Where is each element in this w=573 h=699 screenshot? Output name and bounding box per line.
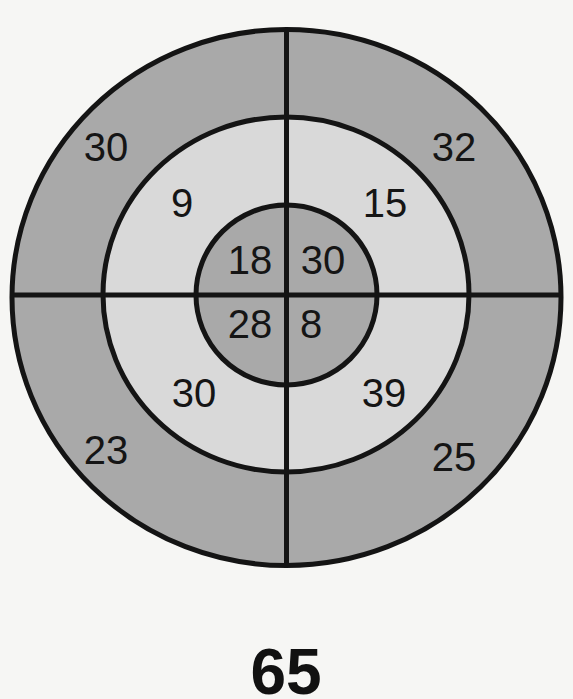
inner-lower-left-value: 28 bbox=[228, 304, 273, 344]
inner-lower-right-value: 8 bbox=[300, 304, 322, 344]
middle-upper-left-value: 9 bbox=[171, 183, 193, 223]
middle-lower-right-value: 39 bbox=[362, 373, 407, 413]
middle-upper-right-value: 15 bbox=[363, 183, 408, 223]
diagram-caption: 65 bbox=[250, 640, 321, 699]
inner-upper-left-value: 18 bbox=[228, 240, 273, 280]
middle-lower-left-value: 30 bbox=[172, 373, 217, 413]
outer-lower-left-value: 23 bbox=[84, 430, 129, 470]
outer-upper-right-value: 32 bbox=[432, 127, 477, 167]
outer-upper-left-value: 30 bbox=[84, 127, 129, 167]
inner-upper-right-value: 30 bbox=[301, 240, 346, 280]
outer-lower-right-value: 25 bbox=[432, 437, 477, 477]
